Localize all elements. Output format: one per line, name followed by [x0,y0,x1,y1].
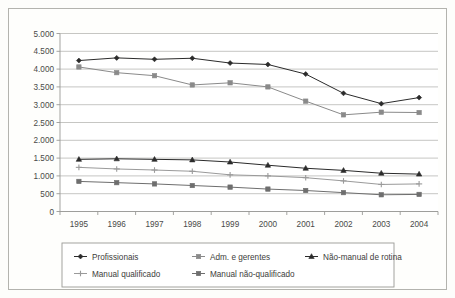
legend: ProfissionaisAdm. e gerentesNão-manual d… [62,243,402,287]
data-point-marker [266,85,270,89]
legend-label: Adm. e gerentes [210,253,270,262]
x-tick-label: 2002 [334,220,353,229]
x-tick-label: 1997 [145,220,164,229]
y-tick-label: 4.500 [34,47,55,56]
data-point-marker [77,65,81,69]
data-point-marker [152,182,156,186]
data-point-marker [190,83,194,87]
legend-label: Manual qualificado [92,270,161,279]
data-point-marker [417,110,421,114]
x-tick-label: 2004 [410,220,429,229]
y-tick-label: 4.000 [34,65,55,74]
x-tick-label: 1996 [108,220,127,229]
x-tick-label: 1995 [70,220,89,229]
data-point-marker [304,188,308,192]
y-tick-label: 3.500 [34,83,55,92]
x-axis: 1995199619971998199920002001200220032004 [60,212,438,229]
data-point-marker [228,81,232,85]
data-point-marker [266,187,270,191]
data-point-marker [341,113,345,117]
x-tick-label: 2003 [372,220,391,229]
data-point-marker [417,192,421,196]
y-axis: 05001.0001.5002.0002.5003.0003.5004.0004… [34,30,61,217]
data-point-marker [77,179,81,183]
data-point-marker [115,70,119,74]
y-tick-label: 5.000 [34,30,55,39]
x-tick-label: 1998 [183,220,202,229]
data-point-marker [341,190,345,194]
data-point-marker [115,180,119,184]
data-point-marker [196,254,200,258]
data-point-marker [379,193,383,197]
y-tick-label: 3.000 [34,101,55,110]
legend-label: Profissionais [92,253,138,262]
data-point-marker [152,73,156,77]
y-tick-label: 1.500 [34,154,55,163]
legend-label: Manual não-qualificado [210,270,295,279]
x-tick-label: 2001 [297,220,316,229]
data-point-marker [379,110,383,114]
data-point-marker [304,99,308,103]
data-point-marker [196,271,200,275]
legend-label: Não-manual de rotina [323,253,402,262]
y-tick-label: 0 [49,208,54,217]
data-point-marker [190,183,194,187]
x-tick-label: 2000 [259,220,278,229]
y-tick-label: 2.000 [34,136,55,145]
y-tick-label: 500 [40,190,54,199]
line-chart: 05001.0001.5002.0002.5003.0003.5004.0004… [0,0,455,298]
y-tick-label: 2.500 [34,119,55,128]
x-tick-label: 1999 [221,220,240,229]
data-point-marker [228,185,232,189]
chart-figure: 05001.0001.5002.0002.5003.0003.5004.0004… [0,0,455,298]
y-tick-label: 1.000 [34,172,55,181]
